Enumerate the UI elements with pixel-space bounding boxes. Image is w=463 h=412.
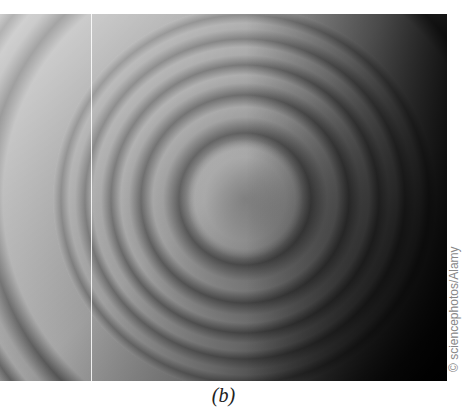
figure-caption: (b)	[0, 384, 447, 407]
interference-rings-photo	[0, 14, 447, 381]
photo-shading-right	[0, 14, 447, 381]
photo-credit: © sciencephotos/Alamy	[447, 246, 461, 372]
vertical-scratch-line	[91, 14, 92, 381]
